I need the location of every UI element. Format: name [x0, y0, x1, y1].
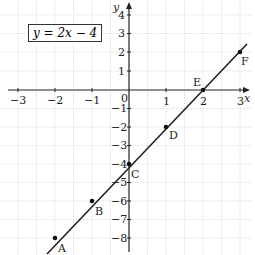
x-axis-label: x — [244, 93, 250, 104]
x-tick-label: 2 — [200, 96, 207, 107]
y-axis-arrow-icon — [126, 2, 132, 9]
y-tick-label: −2 — [111, 122, 127, 133]
y-tick-label: −5 — [111, 177, 127, 188]
x-tick-label: 3 — [237, 96, 244, 107]
point-label-c: C — [131, 169, 139, 180]
y-tick-label: 1 — [118, 66, 125, 77]
x-tick-label: −1 — [84, 95, 100, 106]
point-label-a: A — [58, 243, 66, 254]
point-label-f: F — [241, 56, 249, 67]
point-label-d: D — [169, 130, 178, 141]
x-tick-label: −3 — [10, 95, 26, 106]
x-tick-label: 1 — [163, 96, 170, 107]
point-label-b: B — [95, 206, 103, 217]
x-tick-label: −2 — [47, 95, 63, 106]
y-tick-label: 4 — [118, 10, 125, 21]
equation-label: y = 2x − 4 — [28, 24, 102, 42]
y-tick-label: −3 — [111, 140, 127, 151]
y-tick-label: −1 — [111, 103, 127, 114]
point-label-e: E — [193, 77, 201, 88]
y-tick-label: 2 — [118, 47, 125, 58]
y-tick-label: −7 — [111, 214, 127, 225]
y-tick-label: 3 — [118, 28, 125, 39]
y-tick-label: −6 — [111, 196, 127, 207]
series-line — [47, 44, 247, 254]
y-tick-label: −8 — [111, 233, 127, 244]
y-tick-label: −4 — [111, 159, 127, 170]
